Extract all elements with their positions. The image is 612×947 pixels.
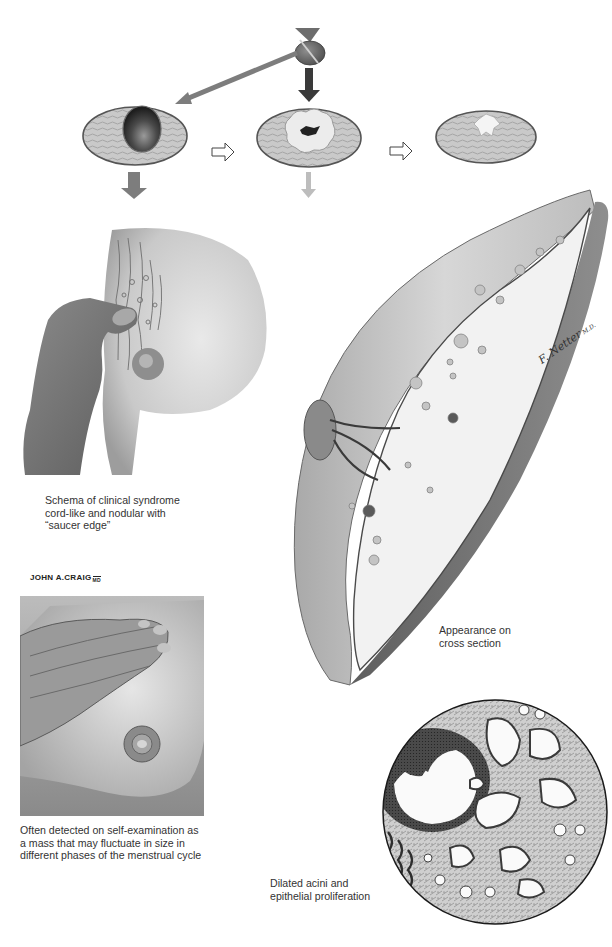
cross-section-cyst — [83, 106, 187, 165]
histology-micrograph — [370, 680, 612, 947]
outline-arrow-right-icon — [212, 143, 234, 161]
caption-cross-section: Appearance on cross section — [439, 624, 511, 649]
self-exam-illustration — [20, 596, 204, 816]
signature-craig: JOHN A.CRAIGMD — [30, 573, 101, 583]
arrow-to-cyst-icon — [175, 53, 297, 104]
gland-icon — [295, 28, 325, 65]
cross-section-fibrosis — [436, 111, 536, 163]
outline-arrow-right-icon — [390, 142, 412, 160]
caption-schema: Schema of clinical syndrome cord-like an… — [45, 494, 180, 532]
clinical-schema-illustration — [0, 220, 280, 480]
arrow-down-icon — [121, 172, 147, 199]
nipple — [132, 348, 164, 380]
arrow-to-proliferation-icon — [298, 68, 320, 102]
cross-section-proliferation — [257, 109, 361, 167]
nipple — [124, 726, 160, 762]
caption-self-exam: Often detected on self-examination as a … — [20, 824, 201, 862]
cross-section-illustration — [290, 180, 612, 690]
pathway-diagram — [0, 0, 612, 210]
caption-histology: Dilated acini and epithelial proliferati… — [270, 877, 370, 902]
